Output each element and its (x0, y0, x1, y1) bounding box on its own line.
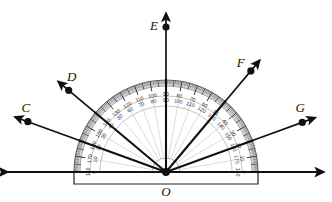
point-label-E: E (149, 18, 158, 33)
point-dot-F (247, 67, 254, 74)
inner-scale-label-30: 30 (99, 132, 107, 140)
point-label-G: G (296, 100, 306, 115)
inner-scale-label-70: 70 (138, 100, 146, 108)
protractor-figure: 0102030405060708090100110120130140150160… (0, 0, 332, 202)
ray-arrow-G (252, 118, 315, 141)
center-dot-O (162, 168, 170, 176)
inner-scale-label-80: 80 (150, 97, 157, 104)
point-dot-E (162, 23, 169, 30)
inner-scale-label-10: 10 (92, 156, 99, 163)
inner-scale-label-110: 110 (186, 100, 196, 109)
inner-scale-label-100: 100 (174, 97, 184, 104)
faint-ray-40 (177, 123, 224, 163)
point-label-C: C (22, 100, 31, 115)
ray-arrow-C (15, 117, 80, 141)
center-label-O: O (161, 184, 171, 199)
ray-arrow-D (58, 81, 96, 112)
point-label-F: F (236, 55, 246, 70)
faint-ray-110 (140, 101, 161, 159)
faint-ray-70 (171, 101, 192, 159)
protractor-canvas: 0102030405060708090100110120130140150160… (0, 0, 332, 202)
point-dot-G (299, 119, 306, 126)
point-dot-D (65, 87, 72, 94)
point-dot-C (24, 118, 31, 125)
inner-scale-label-60: 60 (126, 105, 134, 113)
point-label-D: D (66, 69, 77, 84)
faint-ray-130 (117, 114, 157, 161)
inner-scale-label-170: 170 (233, 155, 240, 165)
